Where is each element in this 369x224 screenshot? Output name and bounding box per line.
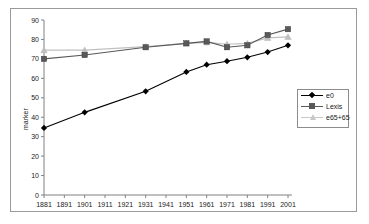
- data-point-diamond[interactable]: [265, 49, 271, 55]
- x-tick-label: 2001: [280, 201, 296, 208]
- legend-item-lexis[interactable]: Lexis: [298, 101, 348, 112]
- data-point-square[interactable]: [204, 39, 209, 44]
- data-point-diamond[interactable]: [244, 54, 250, 60]
- data-point-square[interactable]: [41, 56, 46, 61]
- y-axis-title: marker: [22, 108, 29, 130]
- diamond-icon: [309, 92, 316, 99]
- series-line: [44, 45, 288, 128]
- y-tick-label: 90: [31, 17, 39, 24]
- data-point-square[interactable]: [224, 45, 229, 50]
- data-point-diamond[interactable]: [224, 58, 230, 64]
- y-tick-label: 30: [31, 133, 39, 140]
- x-tick-label: 1961: [199, 201, 215, 208]
- data-point-square[interactable]: [143, 45, 148, 50]
- y-tick-label: 40: [31, 114, 39, 121]
- y-tick-label: 80: [31, 36, 39, 43]
- data-point-square[interactable]: [184, 41, 189, 46]
- data-point-diamond[interactable]: [82, 109, 88, 115]
- chart-legend: e0 Lexis e65+65: [297, 89, 349, 128]
- y-tick-label: 20: [31, 153, 39, 160]
- legend-item-e65[interactable]: e65+65: [298, 112, 348, 123]
- legend-label-e65: e65+65: [326, 114, 350, 121]
- x-tick-label: 1881: [36, 201, 52, 208]
- x-tick-label: 1901: [77, 201, 93, 208]
- data-point-diamond[interactable]: [183, 69, 189, 75]
- y-tick-label: 50: [31, 94, 39, 101]
- x-tick-label: 1931: [138, 201, 154, 208]
- data-point-square[interactable]: [245, 43, 250, 48]
- legend-swatch-e65: [301, 113, 323, 122]
- legend-label-e0: e0: [326, 92, 334, 99]
- legend-swatch-e0: [301, 91, 323, 100]
- data-point-diamond[interactable]: [143, 88, 149, 94]
- x-tick-label: 1891: [57, 201, 73, 208]
- x-tick-label: 1941: [158, 201, 174, 208]
- x-tick-label: 1971: [219, 201, 235, 208]
- legend-label-lexis: Lexis: [326, 103, 342, 110]
- y-tick-label: 70: [31, 55, 39, 62]
- data-point-square[interactable]: [285, 26, 290, 31]
- y-tick-label: 10: [31, 172, 39, 179]
- series-line: [44, 29, 288, 59]
- x-tick-label: 1981: [240, 201, 256, 208]
- y-tick-label: 0: [35, 192, 39, 199]
- x-tick-label: 1911: [97, 201, 112, 208]
- x-tick-label: 1991: [260, 201, 276, 208]
- legend-swatch-lexis: [301, 102, 323, 111]
- series-e65+65: [41, 34, 291, 53]
- data-point-diamond[interactable]: [204, 62, 210, 68]
- legend-item-e0[interactable]: e0: [298, 90, 348, 101]
- y-tick-label: 60: [31, 75, 39, 82]
- data-point-square[interactable]: [82, 52, 87, 57]
- triangle-icon: [310, 114, 316, 120]
- data-point-square[interactable]: [265, 32, 270, 37]
- square-icon: [309, 103, 315, 109]
- data-point-diamond[interactable]: [285, 42, 291, 48]
- x-tick-label: 1951: [179, 201, 195, 208]
- data-point-diamond[interactable]: [41, 125, 47, 131]
- x-tick-label: 1921: [118, 201, 134, 208]
